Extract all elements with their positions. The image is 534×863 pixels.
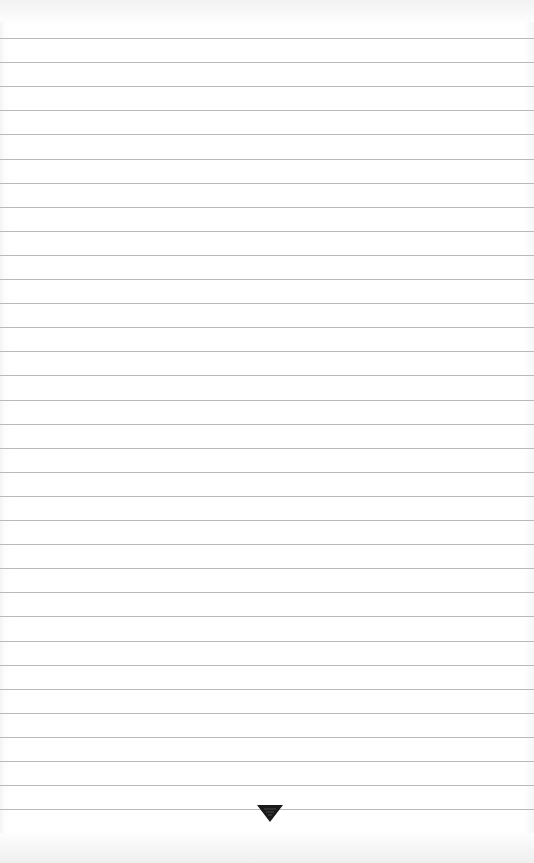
lined-paper-page bbox=[0, 0, 534, 863]
ruled-line bbox=[0, 424, 534, 425]
ruled-line bbox=[0, 38, 534, 39]
down-triangle-ornament-icon bbox=[256, 803, 284, 823]
page-top-edge bbox=[0, 0, 534, 22]
ruled-line bbox=[0, 713, 534, 714]
ruled-line bbox=[0, 568, 534, 569]
ruled-line bbox=[0, 544, 534, 545]
ruled-line bbox=[0, 785, 534, 786]
ruled-line bbox=[0, 665, 534, 666]
ruled-line bbox=[0, 159, 534, 160]
ruled-line bbox=[0, 689, 534, 690]
ruled-line bbox=[0, 592, 534, 593]
ruled-line bbox=[0, 110, 534, 111]
ruled-line bbox=[0, 641, 534, 642]
ruled-line bbox=[0, 761, 534, 762]
ruled-line bbox=[0, 496, 534, 497]
ruled-line bbox=[0, 183, 534, 184]
ruled-line bbox=[0, 327, 534, 328]
ruled-line bbox=[0, 279, 534, 280]
ruled-line bbox=[0, 134, 534, 135]
ruled-line bbox=[0, 86, 534, 87]
ruled-line bbox=[0, 255, 534, 256]
ruled-line bbox=[0, 472, 534, 473]
ruled-line bbox=[0, 62, 534, 63]
ruled-line bbox=[0, 351, 534, 352]
ruled-line bbox=[0, 737, 534, 738]
page-bottom-edge bbox=[0, 833, 534, 863]
ruled-line bbox=[0, 303, 534, 304]
ruled-line bbox=[0, 207, 534, 208]
ruled-line bbox=[0, 448, 534, 449]
ruled-line bbox=[0, 400, 534, 401]
ruled-line bbox=[0, 375, 534, 376]
ruled-line bbox=[0, 616, 534, 617]
ruled-line bbox=[0, 231, 534, 232]
ruled-line bbox=[0, 520, 534, 521]
